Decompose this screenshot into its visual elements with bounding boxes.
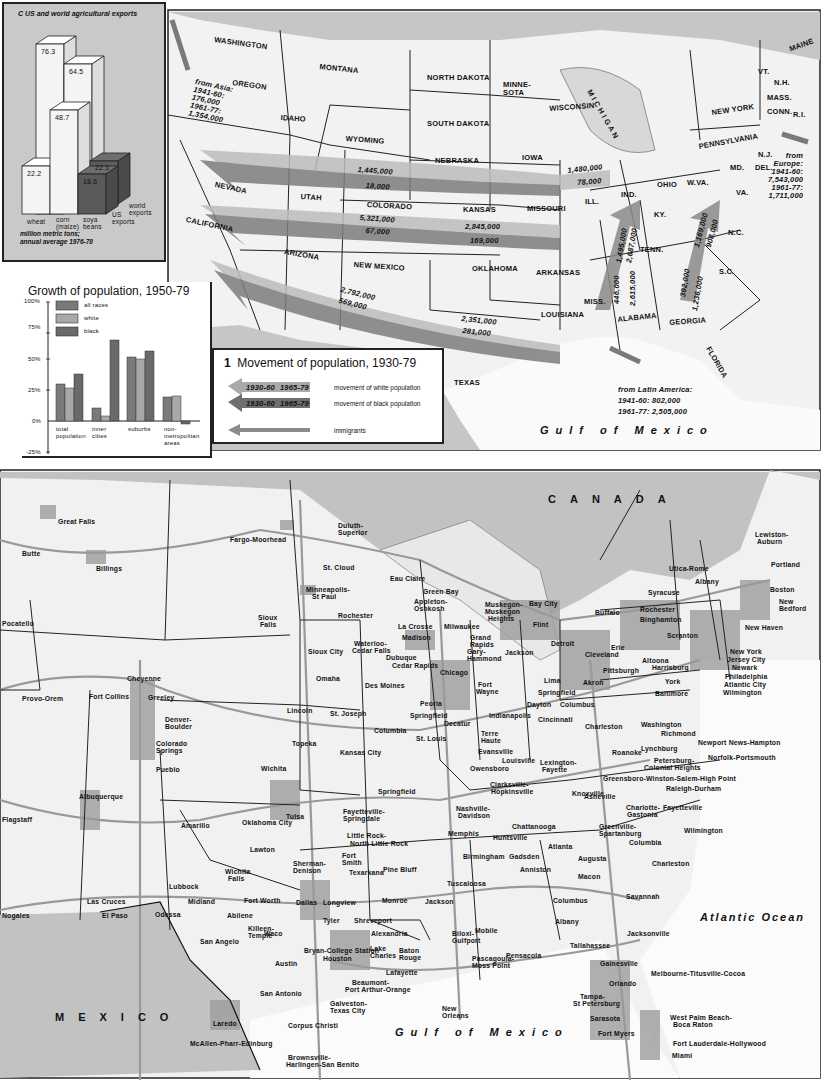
city-label: Dallas bbox=[296, 899, 317, 906]
value-soya-us: 18.6 bbox=[83, 178, 97, 185]
flow-value: 2,615,000 bbox=[628, 271, 637, 306]
city-label: Asheville bbox=[584, 793, 616, 800]
city-label: Boston bbox=[770, 586, 795, 593]
city-label: Decatur bbox=[444, 720, 471, 727]
bottom-map-graphic bbox=[0, 460, 827, 1083]
y-tick: 25% bbox=[28, 387, 41, 393]
city-label: St. Joseph bbox=[330, 710, 366, 717]
state-label: SOUTH DAKOTA bbox=[427, 119, 489, 128]
city-label: Boca Raton bbox=[673, 1021, 713, 1028]
city-label: Eau Claire bbox=[390, 575, 425, 582]
city-label: Clarksville- bbox=[490, 781, 529, 788]
city-label: New bbox=[442, 1005, 457, 1012]
category-wheat: wheat bbox=[27, 218, 45, 225]
state-label: MASS. bbox=[767, 93, 792, 102]
city-label: Gulfport bbox=[452, 937, 480, 944]
city-label: Fort Collins bbox=[89, 693, 129, 700]
city-label: Birmingham bbox=[463, 853, 505, 860]
city-label: Portland bbox=[771, 561, 800, 568]
city-label: Colorado bbox=[156, 740, 187, 747]
city-label: Pine Bluff bbox=[383, 866, 417, 873]
state-label: NORTH DAKOTA bbox=[427, 73, 490, 82]
value-soya-world: 22.1 bbox=[95, 164, 109, 171]
city-label: Jersey City bbox=[727, 656, 765, 663]
city-label: Tyler bbox=[323, 917, 340, 924]
city-label: Anniston bbox=[520, 866, 551, 873]
city-label: Austin bbox=[275, 960, 297, 967]
city-label: Rapids bbox=[470, 641, 494, 648]
sea-label-atlantic: Atlantic Ocean bbox=[700, 911, 805, 923]
city-label: Hammond bbox=[467, 655, 502, 662]
city-label: Augusta bbox=[578, 855, 607, 862]
city-label: Peoria bbox=[420, 700, 442, 707]
movement-legend: 1 Movement of population, 1930-79 1930-6… bbox=[212, 348, 444, 444]
state-label: NEBRASKA bbox=[435, 156, 479, 165]
y-tick: 50% bbox=[28, 356, 41, 362]
city-label: Flagstaff bbox=[2, 816, 32, 823]
city-label: Fort Myers bbox=[598, 1030, 635, 1037]
sea-label-gulf: Gulf of Mexico bbox=[540, 424, 714, 436]
city-label: Waco bbox=[264, 930, 283, 937]
category-total: totalpopulation bbox=[56, 426, 86, 440]
city-label: Oklahoma City bbox=[242, 819, 292, 826]
state-label: VA. bbox=[736, 188, 749, 197]
city-label: Port Arthur-Orange bbox=[345, 986, 411, 993]
city-label: Great Falls bbox=[58, 518, 95, 525]
city-label: Muskegon- bbox=[485, 601, 523, 608]
city-label: Louisville bbox=[502, 757, 535, 764]
legend-row-immigrants: immigrants bbox=[334, 427, 366, 434]
city-label: Miami bbox=[672, 1052, 692, 1059]
city-label: Washington bbox=[641, 721, 682, 728]
city-label: Tallahassee bbox=[570, 942, 610, 949]
city-label: Terre bbox=[481, 730, 499, 737]
city-label: Cincinnati bbox=[538, 716, 573, 723]
city-label: Columbia bbox=[374, 727, 407, 734]
bottom-map: CANADA MEXICO Gulf of Mexico Atlantic Oc… bbox=[0, 460, 827, 1083]
category-non-metro: non-metropolitanareas bbox=[164, 426, 199, 447]
city-label: Pittsburgh bbox=[603, 667, 639, 674]
city-label: Nashville- bbox=[456, 805, 490, 812]
city-label: Petersburg- bbox=[654, 757, 694, 764]
city-label: Springfield bbox=[538, 689, 576, 696]
city-label: Houston bbox=[323, 955, 352, 962]
city-label: St. Cloud bbox=[323, 564, 355, 571]
city-label: Texas City bbox=[330, 1007, 366, 1014]
city-label: Sioux City bbox=[308, 648, 343, 655]
city-label: Monroe bbox=[382, 897, 408, 904]
city-label: Fort bbox=[478, 681, 492, 688]
city-label: Omaha bbox=[316, 675, 340, 682]
city-label: Evansville bbox=[478, 748, 513, 755]
city-label: Waterloo- bbox=[354, 640, 387, 647]
city-label: Wichita bbox=[261, 765, 287, 772]
city-label: Cleveland bbox=[585, 651, 619, 658]
city-label: Abilene bbox=[227, 912, 253, 919]
state-label: SOTA bbox=[503, 88, 524, 97]
city-label: Mobile bbox=[475, 927, 498, 934]
value-corn-world: 64.5 bbox=[69, 68, 83, 75]
city-label: Charles bbox=[370, 952, 396, 959]
city-label: Scranton bbox=[667, 632, 698, 639]
city-label: Lexington- bbox=[540, 759, 577, 766]
state-label: S.C. bbox=[719, 267, 734, 276]
country-label-mexico: MEXICO bbox=[55, 1011, 182, 1023]
city-label: Spartanburg bbox=[599, 830, 642, 837]
europe-annotation: fromEurope:1941-60:7,543,0001961-77:1,71… bbox=[768, 152, 803, 200]
state-label: LOUISIANA bbox=[541, 310, 584, 319]
city-label: Akron bbox=[583, 679, 604, 686]
city-label: Bay City bbox=[529, 600, 558, 607]
city-label: Jacksonville bbox=[627, 930, 670, 937]
city-label: Fort bbox=[342, 852, 356, 859]
city-label: Indianapolis bbox=[489, 712, 531, 719]
city-label: Grand bbox=[470, 634, 491, 641]
city-label: Duluth- bbox=[338, 522, 363, 529]
city-label: Lubbock bbox=[169, 883, 199, 890]
legend-all-races: all races bbox=[84, 302, 108, 308]
legend-us-exports: USexports bbox=[112, 211, 135, 225]
city-label: New Haven bbox=[745, 624, 783, 631]
city-label: Syracuse bbox=[648, 589, 680, 596]
legend-row-white: movement of white population bbox=[334, 384, 420, 391]
city-label: Colonial Heights bbox=[644, 764, 701, 771]
city-label: Memphis bbox=[448, 830, 479, 837]
city-label: St. Louis bbox=[416, 735, 447, 742]
city-label: Minneapolis- bbox=[306, 586, 350, 593]
